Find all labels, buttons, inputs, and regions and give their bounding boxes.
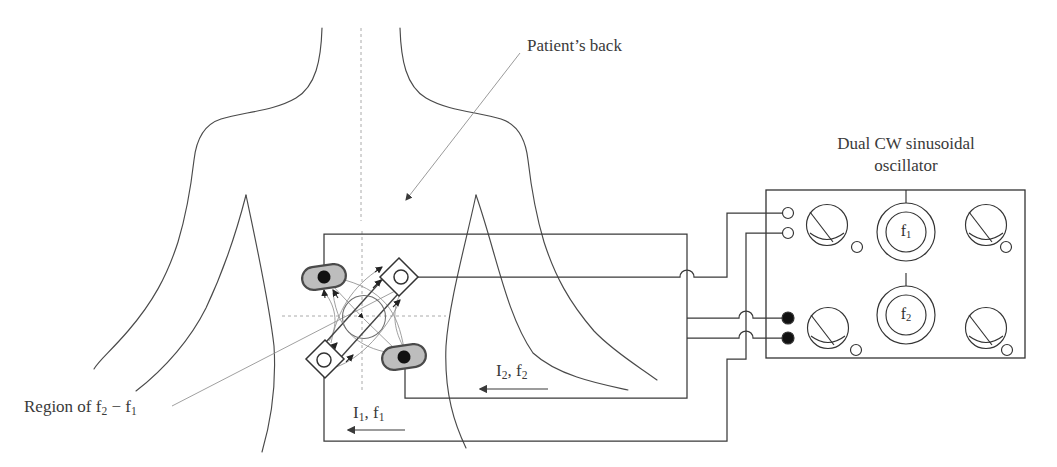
electrode-top-left bbox=[301, 263, 348, 292]
body-left-inner-arm bbox=[136, 195, 246, 391]
i1f1-sub2: 1 bbox=[379, 411, 385, 424]
electrode-bottom-left bbox=[306, 340, 344, 378]
wires bbox=[324, 213, 782, 441]
i1f1-label: I1, f1 bbox=[353, 402, 384, 425]
i2f2-sub2: 2 bbox=[522, 369, 528, 382]
arrow-into-tl-bottom-1 bbox=[324, 290, 325, 298]
electrode-bottom-right bbox=[381, 343, 428, 372]
i2f2-mid: , f bbox=[507, 361, 521, 380]
thin-lines bbox=[172, 268, 404, 406]
terminal-open-2 bbox=[783, 228, 794, 239]
patients-back-label: Patient’s back bbox=[527, 35, 622, 57]
body-right-neck-shoulder-arm bbox=[400, 28, 657, 380]
dial-f1-label: f1 bbox=[886, 222, 926, 240]
figure-canvas: Patient’s back Dual CW sinusoidal oscill… bbox=[0, 0, 1057, 467]
dial-f2-label: f2 bbox=[886, 305, 926, 323]
region-label-sub2: 1 bbox=[131, 405, 137, 418]
terminal-open-1 bbox=[783, 208, 794, 219]
oscillator-label: Dual CW sinusoidal oscillator bbox=[795, 133, 1017, 178]
electrode-bottom-left-contact bbox=[317, 353, 331, 367]
body-right-side bbox=[446, 195, 476, 448]
electrode-top-right-contact bbox=[394, 270, 408, 284]
dial-f2-sub: 2 bbox=[906, 312, 911, 323]
region-label: Region of f2 − f1 bbox=[24, 396, 137, 419]
i2f2-label: I2, f2 bbox=[496, 360, 527, 383]
i1f1-mid: , f bbox=[364, 403, 378, 422]
arrow-arc-nw-end bbox=[375, 267, 382, 272]
electrode-top-right bbox=[380, 258, 418, 296]
body-left-side bbox=[246, 195, 275, 452]
dial-f1-sub: 1 bbox=[906, 229, 911, 240]
region-label-mid: − f bbox=[107, 397, 131, 416]
patient-body-outline bbox=[94, 28, 657, 452]
terminal-filled-1 bbox=[782, 312, 794, 324]
body-left-neck-shoulder-arm bbox=[94, 28, 322, 369]
patients-back-arrow bbox=[406, 53, 520, 200]
oscillator-label-line1: Dual CW sinusoidal bbox=[795, 133, 1017, 155]
arrow-band-upper-ne bbox=[373, 280, 381, 288]
patients-back-text: Patient’s back bbox=[527, 36, 622, 55]
terminal-filled-2 bbox=[782, 332, 794, 344]
oscillator-label-line2: oscillator bbox=[795, 155, 1017, 177]
reference-dashed-lines bbox=[282, 28, 446, 392]
region-label-pre: Region of f bbox=[24, 397, 101, 416]
